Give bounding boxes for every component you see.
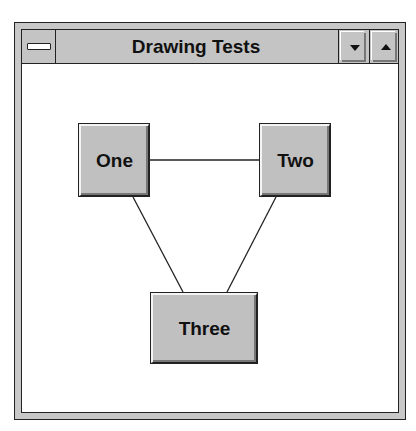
node-two[interactable]: Two [260, 124, 330, 196]
edge-two-three [227, 197, 276, 292]
node-three[interactable]: Three [151, 293, 257, 363]
edge-one-three [133, 197, 183, 292]
edges-layer [0, 0, 416, 431]
node-one[interactable]: One [79, 124, 149, 196]
